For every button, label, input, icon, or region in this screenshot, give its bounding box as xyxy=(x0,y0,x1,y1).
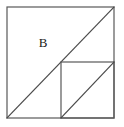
region-label-b: B xyxy=(39,35,48,50)
diagram-background xyxy=(0,0,124,127)
geometry-figure-container: B xyxy=(0,0,124,127)
geometry-diagram: B xyxy=(0,0,124,127)
